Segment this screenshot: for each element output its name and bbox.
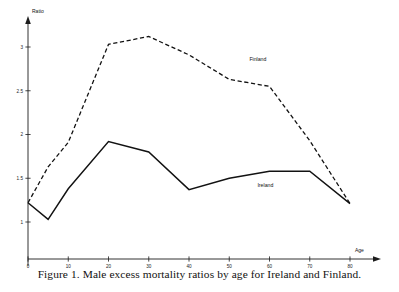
figure-container: 11.522.53 Ratio 01020304050607080 Age Fi… <box>0 0 399 292</box>
y-tick-label: 1.5 <box>17 176 24 181</box>
x-axis-title: Age <box>355 247 364 253</box>
series-line-ireland <box>28 142 350 220</box>
x-axis-arrowhead <box>373 256 381 262</box>
series-group <box>28 37 350 220</box>
x-axis: 01020304050607080 Age <box>27 247 381 268</box>
x-tick-group: 01020304050607080 <box>27 256 353 268</box>
y-axis-title: Ratio <box>32 8 44 14</box>
y-axis: 11.522.53 Ratio <box>17 8 44 266</box>
y-tick-label: 3 <box>20 45 23 50</box>
series-label-ireland: Ireland <box>257 182 273 188</box>
y-axis-arrowhead <box>25 16 31 24</box>
chart-plot: 11.522.53 Ratio 01020304050607080 Age Fi… <box>0 0 399 268</box>
y-tick-group: 11.522.53 <box>17 45 31 225</box>
figure-caption: Figure 1. Male excess mortality ratios b… <box>0 268 399 280</box>
y-tick-label: 2.5 <box>17 89 24 94</box>
series-label-finland: Finland <box>249 56 266 62</box>
y-tick-label: 2 <box>20 132 23 137</box>
y-tick-label: 1 <box>20 220 23 225</box>
